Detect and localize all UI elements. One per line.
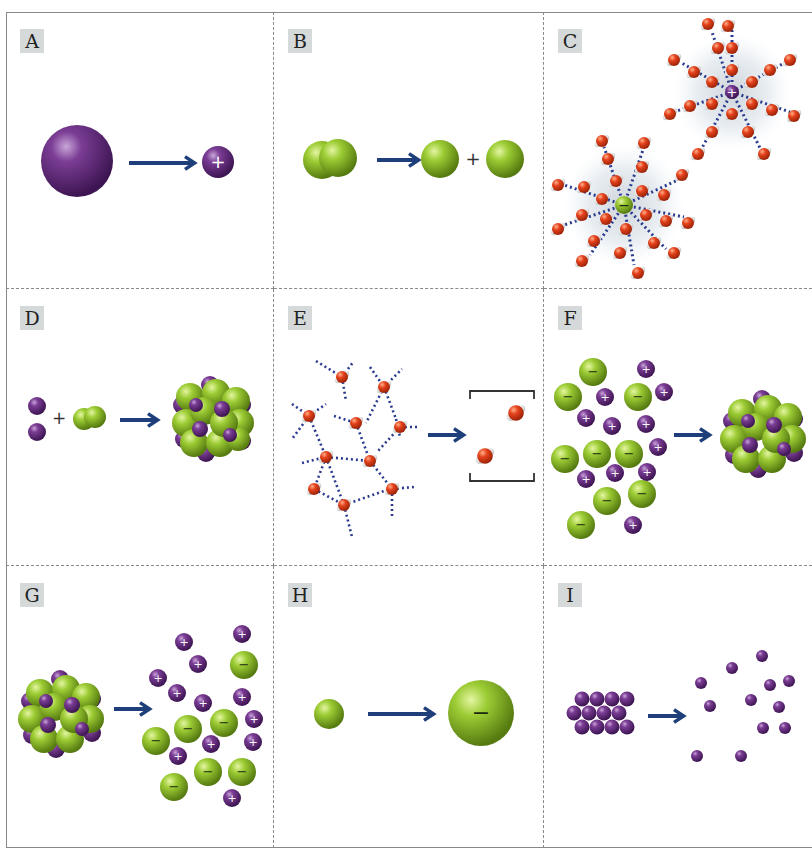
svg-text:+: + — [727, 85, 738, 100]
svg-text:+: + — [173, 750, 182, 763]
water-network-separation-illustration — [274, 289, 544, 566]
svg-text:+: + — [227, 792, 236, 805]
svg-text:−: − — [219, 715, 230, 730]
svg-text:+: + — [659, 386, 668, 399]
bracket-bottom — [470, 473, 534, 481]
bracket-top — [470, 391, 534, 399]
panel-h: H − — [274, 566, 544, 848]
svg-text:−: − — [633, 389, 644, 404]
svg-text:+: + — [642, 466, 651, 479]
svg-text:+: + — [641, 418, 650, 431]
svg-text:−: − — [563, 389, 574, 404]
svg-text:−: − — [637, 486, 648, 501]
svg-text:+: + — [600, 391, 609, 404]
svg-text:−: − — [576, 517, 587, 532]
panel-f: F −−− −−− −−− — [544, 289, 812, 566]
hydrated-cation-cluster: + — [663, 18, 801, 160]
svg-text:−: − — [237, 764, 248, 779]
panel-e: E — [274, 289, 544, 566]
ionic-lattice-icon — [172, 376, 254, 462]
diagram-grid: A + B + C — [6, 12, 812, 848]
svg-text:−: − — [183, 721, 194, 736]
panel-d: D + — [6, 289, 274, 566]
svg-text:+: + — [641, 363, 650, 376]
svg-text:+: + — [52, 408, 66, 428]
gaseous-atoms-icon — [691, 650, 795, 762]
ionic-lattice-icon — [18, 670, 104, 758]
svg-text:+: + — [248, 736, 257, 749]
ionic-compound-formation-illustration: + — [6, 289, 274, 566]
neutral-atom-icon — [314, 699, 344, 729]
svg-text:−: − — [560, 451, 571, 466]
svg-text:−: − — [602, 493, 613, 508]
ion-crystallization-illustration: −−− −−− −−− +++ +++ +++ ++ — [544, 289, 812, 566]
svg-text:+: + — [172, 687, 181, 700]
svg-text:+: + — [210, 151, 225, 172]
panel-a: A + — [6, 12, 274, 289]
svg-text:+: + — [581, 412, 590, 425]
svg-text:+: + — [153, 672, 162, 685]
anion-formation-illustration: − — [274, 566, 544, 848]
svg-text:−: − — [592, 446, 603, 461]
hydrated-ions-illustration: + − — [544, 12, 812, 289]
ionic-lattice-icon — [720, 390, 806, 478]
svg-text:+: + — [179, 636, 188, 649]
metal-atom-icon — [28, 423, 46, 441]
atom-vaporization-illustration — [544, 566, 812, 848]
separate-ions: −−− −−− − +++ +++ +++ +++ — [142, 625, 263, 807]
svg-text:−: − — [203, 764, 214, 779]
svg-text:−: − — [624, 446, 635, 461]
hydrated-anion-cluster: − — [551, 135, 695, 279]
panel-b: B + — [274, 12, 544, 289]
neutral-atom-icon — [41, 125, 113, 197]
svg-text:+: + — [249, 713, 258, 726]
cation-formation-illustration: + — [6, 12, 274, 289]
svg-text:+: + — [581, 473, 590, 486]
atom-icon — [421, 140, 459, 178]
svg-text:+: + — [465, 148, 480, 169]
ionic-dissociation-illustration: −−− −−− − +++ +++ +++ +++ — [6, 566, 274, 848]
solid-metal-icon — [567, 692, 635, 735]
metal-atom-icon — [28, 397, 46, 415]
separate-ions: −−− −−− −−− +++ +++ +++ ++ — [551, 358, 673, 539]
atom-icon — [486, 140, 524, 178]
svg-text:−: − — [472, 700, 490, 725]
svg-text:+: + — [607, 420, 616, 433]
panel-g: G — [6, 566, 274, 848]
panel-i: I — [544, 566, 812, 848]
svg-text:+: + — [628, 519, 637, 532]
svg-text:−: − — [618, 197, 630, 213]
svg-text:+: + — [193, 658, 202, 671]
hydrogen-bonds — [292, 361, 418, 537]
svg-text:−: − — [588, 364, 599, 379]
svg-text:+: + — [198, 697, 207, 710]
svg-text:+: + — [237, 691, 246, 704]
svg-text:−: − — [239, 657, 250, 672]
svg-text:−: − — [169, 779, 180, 794]
svg-text:−: − — [151, 733, 162, 748]
svg-text:+: + — [206, 738, 215, 751]
svg-text:+: + — [653, 441, 662, 454]
molecule-splitting-illustration: + — [274, 12, 544, 289]
svg-text:+: + — [610, 467, 619, 480]
svg-text:+: + — [237, 628, 246, 641]
panel-c: C + — [544, 12, 812, 289]
